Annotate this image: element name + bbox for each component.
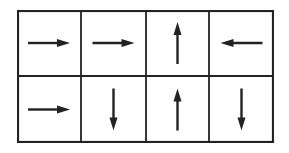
arrow-up-icon xyxy=(174,89,182,131)
arrow-down-icon xyxy=(110,89,118,131)
arrow-up-icon xyxy=(174,22,182,64)
arrow-down-icon xyxy=(238,89,246,131)
arrow-right-icon xyxy=(28,106,70,114)
arrow-right-icon xyxy=(28,39,70,47)
arrow-grid xyxy=(17,10,274,143)
arrow-right-icon xyxy=(93,39,135,47)
grid-canvas xyxy=(17,10,274,143)
arrow-left-icon xyxy=(221,39,263,47)
